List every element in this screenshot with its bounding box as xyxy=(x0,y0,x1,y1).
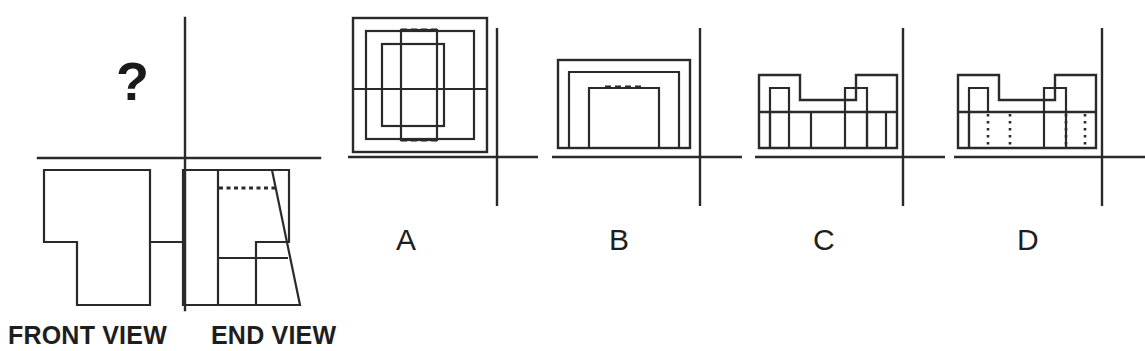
option-a-tall-rect xyxy=(401,30,437,140)
option-a-group[interactable]: A xyxy=(348,18,538,256)
option-c-group[interactable]: C xyxy=(755,28,945,256)
option-c-label[interactable]: C xyxy=(813,223,835,256)
option-b-label[interactable]: B xyxy=(609,223,629,256)
given-views-group: ? FRONT VIEW END VIEW xyxy=(8,18,336,349)
end-view-label: END VIEW xyxy=(211,321,336,349)
option-a-inner-rect xyxy=(382,44,444,126)
option-d-hidden-verticals xyxy=(988,114,1085,146)
end-view-outline xyxy=(218,170,300,305)
puzzle-canvas: ? FRONT VIEW END VIEW A xyxy=(0,0,1145,351)
option-c-inner-verticals xyxy=(770,112,886,148)
option-a-outer-rect xyxy=(353,18,487,152)
technical-drawing-svg: ? FRONT VIEW END VIEW A xyxy=(0,0,1145,351)
front-view-label: FRONT VIEW xyxy=(8,321,167,349)
option-b-group[interactable]: B xyxy=(552,28,742,256)
option-d-notch-step xyxy=(969,88,1066,148)
option-d-label[interactable]: D xyxy=(1017,223,1039,256)
question-mark: ? xyxy=(116,51,149,111)
option-a-label[interactable]: A xyxy=(396,223,416,256)
option-d-solid-verticals xyxy=(969,112,1044,148)
option-c-notch-step xyxy=(770,88,867,148)
option-b-inner-shape xyxy=(589,88,659,148)
option-b-outer-rect xyxy=(558,60,690,148)
option-d-group[interactable]: D xyxy=(954,28,1145,256)
front-view-outline xyxy=(44,170,289,305)
option-b-mid-shape xyxy=(569,72,679,148)
